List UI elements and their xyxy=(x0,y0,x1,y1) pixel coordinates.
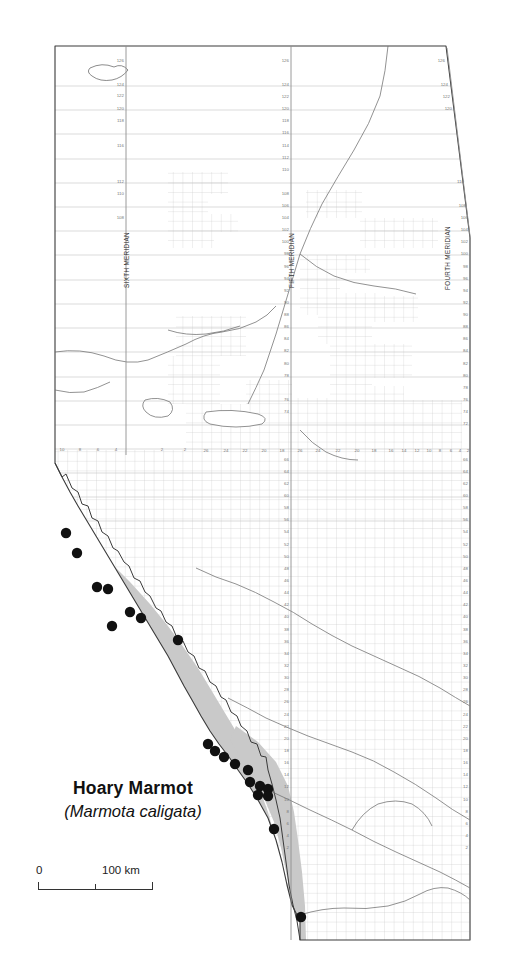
svg-text:108: 108 xyxy=(282,191,290,196)
meridian-label-fifth: FIFTH MERIDIAN xyxy=(288,233,295,288)
svg-text:18: 18 xyxy=(463,748,468,753)
svg-text:40: 40 xyxy=(284,614,289,619)
occurrence-dot xyxy=(253,790,263,800)
svg-text:22: 22 xyxy=(463,724,468,729)
svg-text:14: 14 xyxy=(284,772,289,777)
svg-text:90: 90 xyxy=(463,312,468,317)
occurrence-dot xyxy=(173,635,183,645)
svg-text:38: 38 xyxy=(284,627,289,632)
svg-text:32: 32 xyxy=(284,663,289,668)
svg-text:24: 24 xyxy=(224,448,229,453)
svg-text:50: 50 xyxy=(284,554,289,559)
svg-text:60: 60 xyxy=(463,493,468,498)
svg-text:58: 58 xyxy=(463,505,468,510)
svg-text:124: 124 xyxy=(117,82,125,87)
svg-text:60: 60 xyxy=(284,493,289,498)
svg-text:108: 108 xyxy=(459,203,467,208)
occurrence-dot xyxy=(107,621,117,631)
svg-text:106: 106 xyxy=(282,203,290,208)
svg-text:36: 36 xyxy=(284,639,289,644)
svg-text:98: 98 xyxy=(284,251,289,256)
species-common-name: Hoary Marmot xyxy=(18,778,248,798)
svg-text:20: 20 xyxy=(355,448,360,453)
svg-text:84: 84 xyxy=(284,336,289,341)
svg-text:108: 108 xyxy=(117,215,125,220)
svg-text:88: 88 xyxy=(284,312,289,317)
svg-text:118: 118 xyxy=(117,118,125,123)
svg-text:30: 30 xyxy=(284,675,289,680)
svg-text:38: 38 xyxy=(463,627,468,632)
svg-text:10: 10 xyxy=(284,797,289,802)
svg-text:90: 90 xyxy=(284,300,289,305)
svg-text:64: 64 xyxy=(463,469,468,474)
svg-text:110: 110 xyxy=(457,179,465,184)
svg-text:40: 40 xyxy=(463,614,468,619)
svg-text:10: 10 xyxy=(60,447,65,452)
svg-text:76: 76 xyxy=(284,397,289,402)
svg-text:54: 54 xyxy=(463,529,468,534)
svg-text:96: 96 xyxy=(463,276,468,281)
svg-text:92: 92 xyxy=(463,300,468,305)
svg-text:124: 124 xyxy=(282,82,290,87)
svg-text:120: 120 xyxy=(282,106,290,111)
svg-text:24: 24 xyxy=(463,712,468,717)
species-label-block: Hoary Marmot (Marmota caligata) xyxy=(18,778,248,822)
svg-text:94: 94 xyxy=(463,288,468,293)
svg-text:20: 20 xyxy=(284,736,289,741)
svg-text:98: 98 xyxy=(463,264,468,269)
svg-text:110: 110 xyxy=(282,167,290,172)
scale-bar-tick-start xyxy=(38,882,39,890)
svg-text:110: 110 xyxy=(117,191,125,196)
occurrence-dot xyxy=(243,765,253,775)
occurrence-dot xyxy=(72,548,82,558)
svg-text:26: 26 xyxy=(204,448,209,453)
svg-text:82: 82 xyxy=(284,348,289,353)
svg-text:16: 16 xyxy=(389,448,394,453)
occurrence-dot xyxy=(263,791,273,801)
svg-text:48: 48 xyxy=(284,566,289,571)
svg-text:28: 28 xyxy=(463,687,468,692)
svg-text:14: 14 xyxy=(402,448,407,453)
svg-text:46: 46 xyxy=(463,578,468,583)
svg-text:34: 34 xyxy=(284,651,289,656)
svg-text:50: 50 xyxy=(463,554,468,559)
svg-text:126: 126 xyxy=(117,58,125,63)
scale-bar-min-label: 0 xyxy=(36,864,42,876)
svg-text:20: 20 xyxy=(262,448,267,453)
svg-text:22: 22 xyxy=(336,448,341,453)
svg-text:32: 32 xyxy=(463,663,468,668)
svg-text:44: 44 xyxy=(463,590,468,595)
svg-text:30: 30 xyxy=(463,675,468,680)
svg-text:48: 48 xyxy=(463,566,468,571)
svg-text:102: 102 xyxy=(282,227,290,232)
svg-text:24: 24 xyxy=(284,712,289,717)
svg-text:122: 122 xyxy=(117,93,125,98)
occurrence-dot xyxy=(136,613,146,623)
occurrence-dot xyxy=(92,582,102,592)
occurrence-dot xyxy=(296,912,306,922)
svg-text:14: 14 xyxy=(463,772,468,777)
svg-text:56: 56 xyxy=(463,517,468,522)
svg-text:116: 116 xyxy=(117,143,125,148)
svg-text:120: 120 xyxy=(445,106,453,111)
occurrence-dot xyxy=(210,746,220,756)
svg-text:42: 42 xyxy=(284,602,289,607)
svg-text:66: 66 xyxy=(284,457,289,462)
svg-text:44: 44 xyxy=(284,590,289,595)
occurrence-dot xyxy=(125,607,135,617)
svg-text:52: 52 xyxy=(463,542,468,547)
svg-text:86: 86 xyxy=(463,336,468,341)
svg-text:118: 118 xyxy=(282,118,290,123)
svg-text:66: 66 xyxy=(463,457,468,462)
svg-text:116: 116 xyxy=(282,130,290,135)
svg-text:16: 16 xyxy=(463,760,468,765)
map-figure: SIXTH MERIDIAN FIFTH MERIDIAN FOURTH MER… xyxy=(0,0,526,979)
svg-text:18: 18 xyxy=(372,448,377,453)
svg-text:106: 106 xyxy=(461,215,469,220)
svg-text:18: 18 xyxy=(280,448,285,453)
meridian-label-fourth: FOURTH MERIDIAN xyxy=(444,226,451,290)
scale-bar-tick-mid xyxy=(95,884,96,890)
scale-bar-rule xyxy=(36,882,154,891)
scale-bar-max-label: 100 km xyxy=(102,864,140,876)
svg-text:62: 62 xyxy=(463,481,468,486)
